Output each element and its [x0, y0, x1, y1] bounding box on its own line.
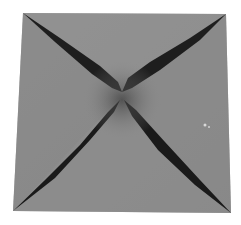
- speck: [204, 124, 207, 127]
- folded-paper-illustration: [0, 0, 241, 225]
- center-shadow: [82, 60, 162, 140]
- speck: [208, 126, 210, 128]
